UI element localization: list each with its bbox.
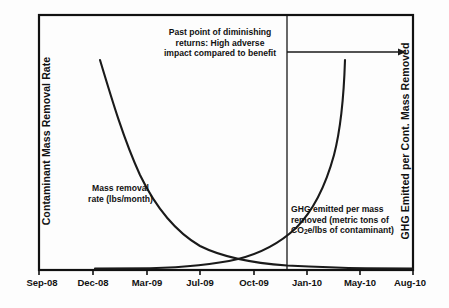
annotation-line-1: Past point of diminishing <box>150 27 290 38</box>
annotation-mass-removal-rate: Mass removal rate (lbs/month) <box>68 183 173 204</box>
annotation-line-3: impact compared to benefit <box>150 48 290 59</box>
arrow-head-icon <box>398 48 406 55</box>
x-tick-label-6: May-10 <box>344 277 376 288</box>
annotation-diminishing-returns: Past point of diminishing returns: High … <box>150 27 290 59</box>
x-tick-label-4: Oct-09 <box>239 277 269 288</box>
chart-container: Contaminant Mass Removal Rate GHG Emitte… <box>0 0 449 308</box>
annotation-line-2: returns: High adverse <box>150 38 290 49</box>
ghg-line-2: removed (metric tons of <box>291 215 409 226</box>
x-tick-label-5: Jan-10 <box>292 277 322 288</box>
ghg-line-1: GHG emitted per mass <box>291 204 409 215</box>
x-tick-label-1: Dec-08 <box>77 277 108 288</box>
ghg-co2-suffix: e/lbs of contaminant) <box>308 225 394 235</box>
x-tick-label-2: Mar-09 <box>132 277 163 288</box>
x-tick-label-0: Sep-08 <box>26 277 57 288</box>
x-tick-label-3: Jul-09 <box>186 277 213 288</box>
ghg-co2-prefix: CO <box>291 225 304 235</box>
mass-removal-line-2: rate (lbs/month) <box>68 194 173 205</box>
mass-removal-line-1: Mass removal <box>68 183 173 194</box>
annotation-ghg-emitted: GHG emitted per mass removed (metric ton… <box>291 204 409 238</box>
ghg-line-3: CO2e/lbs of contaminant) <box>291 225 409 238</box>
x-tick-label-7: Aug-10 <box>394 277 426 288</box>
